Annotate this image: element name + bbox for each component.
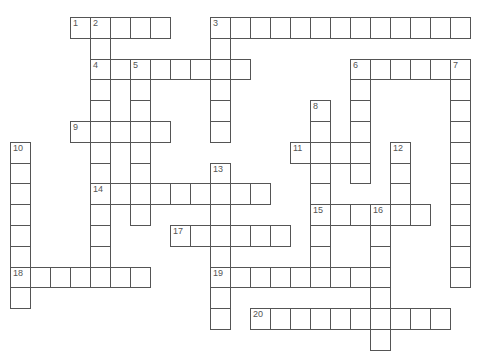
crossword-cell[interactable] xyxy=(10,246,31,268)
crossword-cell[interactable] xyxy=(450,183,471,205)
crossword-cell[interactable] xyxy=(350,308,371,330)
crossword-cell[interactable] xyxy=(310,308,331,330)
crossword-cell[interactable] xyxy=(250,267,271,288)
crossword-cell[interactable] xyxy=(230,183,251,205)
crossword-cell[interactable]: 16 xyxy=(370,204,391,226)
crossword-cell[interactable] xyxy=(390,17,411,39)
crossword-cell[interactable] xyxy=(450,17,471,39)
crossword-cell[interactable] xyxy=(130,204,151,226)
crossword-cell[interactable] xyxy=(170,183,191,205)
crossword-cell[interactable] xyxy=(350,163,371,184)
crossword-cell[interactable] xyxy=(250,225,271,247)
crossword-cell[interactable] xyxy=(130,142,151,164)
crossword-cell[interactable] xyxy=(290,267,311,288)
crossword-cell[interactable] xyxy=(310,225,331,247)
crossword-cell[interactable] xyxy=(90,100,111,122)
crossword-cell[interactable] xyxy=(370,225,391,247)
crossword-cell[interactable] xyxy=(130,17,151,39)
crossword-cell[interactable]: 12 xyxy=(390,142,411,164)
crossword-cell[interactable] xyxy=(350,121,371,143)
crossword-cell[interactable] xyxy=(130,79,151,101)
crossword-cell[interactable] xyxy=(350,100,371,122)
crossword-cell[interactable]: 4 xyxy=(90,59,111,80)
crossword-cell[interactable] xyxy=(310,246,331,268)
crossword-cell[interactable] xyxy=(130,121,151,143)
crossword-cell[interactable] xyxy=(270,267,291,288)
crossword-cell[interactable] xyxy=(330,308,351,330)
crossword-cell[interactable]: 2 xyxy=(90,17,111,39)
crossword-cell[interactable] xyxy=(130,100,151,122)
crossword-cell[interactable]: 5 xyxy=(130,59,151,80)
crossword-cell[interactable] xyxy=(110,17,131,39)
crossword-cell[interactable] xyxy=(110,121,131,143)
crossword-cell[interactable] xyxy=(70,267,91,288)
crossword-cell[interactable] xyxy=(130,267,151,288)
crossword-cell[interactable] xyxy=(290,17,311,39)
crossword-cell[interactable] xyxy=(90,267,111,288)
crossword-cell[interactable]: 14 xyxy=(90,183,111,205)
crossword-cell[interactable] xyxy=(310,267,331,288)
crossword-cell[interactable] xyxy=(310,163,331,184)
crossword-cell[interactable] xyxy=(150,121,171,143)
crossword-cell[interactable] xyxy=(390,59,411,80)
crossword-cell[interactable] xyxy=(10,225,31,247)
crossword-cell[interactable] xyxy=(330,204,351,226)
crossword-cell[interactable] xyxy=(30,267,51,288)
crossword-cell[interactable] xyxy=(90,38,111,60)
crossword-cell[interactable] xyxy=(130,183,151,205)
crossword-cell[interactable] xyxy=(150,59,171,80)
crossword-cell[interactable] xyxy=(310,142,331,164)
crossword-cell[interactable] xyxy=(10,183,31,205)
crossword-cell[interactable] xyxy=(410,308,431,330)
crossword-cell[interactable] xyxy=(370,59,391,80)
crossword-cell[interactable]: 3 xyxy=(210,17,231,39)
crossword-cell[interactable] xyxy=(270,308,291,330)
crossword-cell[interactable] xyxy=(190,183,211,205)
crossword-cell[interactable] xyxy=(450,100,471,122)
crossword-cell[interactable]: 10 xyxy=(10,142,31,164)
crossword-cell[interactable] xyxy=(230,59,251,80)
crossword-cell[interactable] xyxy=(410,204,431,226)
crossword-cell[interactable] xyxy=(50,267,71,288)
crossword-cell[interactable] xyxy=(230,267,251,288)
crossword-cell[interactable] xyxy=(210,79,231,101)
crossword-cell[interactable]: 1 xyxy=(70,17,91,39)
crossword-cell[interactable] xyxy=(110,183,131,205)
crossword-cell[interactable] xyxy=(390,308,411,330)
crossword-cell[interactable]: 7 xyxy=(450,59,471,80)
crossword-cell[interactable] xyxy=(210,100,231,122)
crossword-cell[interactable] xyxy=(270,17,291,39)
crossword-cell[interactable] xyxy=(130,163,151,184)
crossword-cell[interactable] xyxy=(450,142,471,164)
crossword-cell[interactable] xyxy=(90,121,111,143)
crossword-cell[interactable] xyxy=(90,225,111,247)
crossword-cell[interactable] xyxy=(10,204,31,226)
crossword-cell[interactable]: 6 xyxy=(350,59,371,80)
crossword-cell[interactable] xyxy=(370,246,391,268)
crossword-cell[interactable] xyxy=(250,183,271,205)
crossword-cell[interactable] xyxy=(150,183,171,205)
crossword-cell[interactable] xyxy=(410,17,431,39)
crossword-cell[interactable] xyxy=(210,121,231,143)
crossword-cell[interactable] xyxy=(210,59,231,80)
crossword-cell[interactable] xyxy=(330,142,351,164)
crossword-cell[interactable] xyxy=(270,225,291,247)
crossword-cell[interactable]: 19 xyxy=(210,267,231,288)
crossword-cell[interactable] xyxy=(370,267,391,288)
crossword-cell[interactable]: 20 xyxy=(250,308,271,330)
crossword-cell[interactable]: 8 xyxy=(310,100,331,122)
crossword-cell[interactable] xyxy=(450,225,471,247)
crossword-cell[interactable] xyxy=(450,163,471,184)
crossword-cell[interactable] xyxy=(350,79,371,101)
crossword-cell[interactable] xyxy=(450,246,471,268)
crossword-cell[interactable] xyxy=(90,163,111,184)
crossword-cell[interactable] xyxy=(90,204,111,226)
crossword-cell[interactable] xyxy=(210,38,231,60)
crossword-cell[interactable] xyxy=(250,17,271,39)
crossword-cell[interactable] xyxy=(350,142,371,164)
crossword-cell[interactable] xyxy=(430,59,451,80)
crossword-cell[interactable] xyxy=(450,204,471,226)
crossword-cell[interactable]: 17 xyxy=(170,225,191,247)
crossword-cell[interactable] xyxy=(310,183,331,205)
crossword-cell[interactable] xyxy=(310,121,331,143)
